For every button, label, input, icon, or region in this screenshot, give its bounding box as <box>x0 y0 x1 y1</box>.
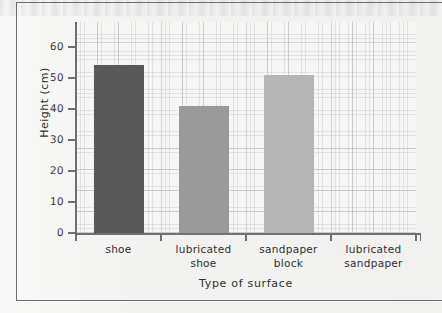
y-axis-tick <box>68 201 76 202</box>
y-axis-tick <box>68 170 76 171</box>
y-axis-title: Height (cm) <box>38 53 51 153</box>
bar <box>179 106 229 233</box>
x-axis-category-label: sandpaperblock <box>246 243 331 270</box>
x-axis-tick <box>75 233 76 241</box>
category-label-line: lubricated <box>161 243 246 257</box>
category-label-line: shoe <box>161 257 246 271</box>
x-axis-title: Type of surface <box>76 277 416 290</box>
x-axis-tick <box>420 233 421 241</box>
y-axis-tick-label: 60 <box>18 40 64 52</box>
bars-container <box>76 22 416 233</box>
y-axis-tick-label: 10 <box>18 195 64 207</box>
x-axis-category-label: lubricatedshoe <box>161 243 246 270</box>
category-label-line: sandpaper <box>331 257 416 271</box>
x-axis-tick <box>330 233 331 241</box>
y-axis-tick <box>68 46 76 47</box>
bar <box>264 75 314 233</box>
x-axis-tick <box>160 233 161 241</box>
x-axis-line <box>75 233 420 235</box>
y-axis-tick-label: 0 <box>18 226 64 238</box>
y-axis-tick <box>68 108 76 109</box>
x-axis-category-label: shoe <box>76 243 161 257</box>
bar <box>94 65 144 233</box>
category-label-line: shoe <box>76 243 161 257</box>
y-axis-tick <box>68 139 76 140</box>
x-axis-category-label: lubricatedsandpaper <box>331 243 416 270</box>
category-label-line: block <box>246 257 331 271</box>
y-axis-tick <box>68 77 76 78</box>
category-label-line: lubricated <box>331 243 416 257</box>
y-axis-tick-label: 20 <box>18 164 64 176</box>
x-axis-tick <box>245 233 246 241</box>
category-label-line: sandpaper <box>246 243 331 257</box>
x-axis-tick <box>415 233 416 241</box>
